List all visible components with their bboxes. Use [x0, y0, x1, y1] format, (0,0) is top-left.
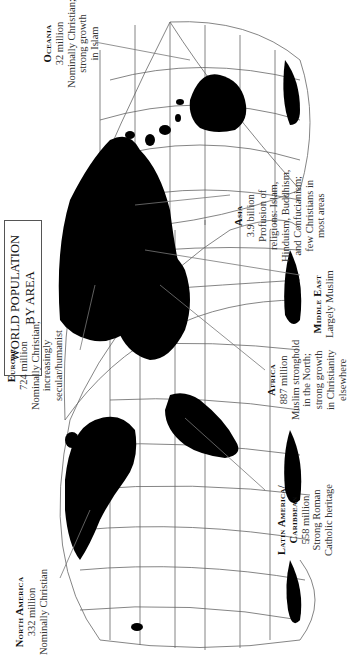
- new-zealand-island: [225, 92, 235, 98]
- hawaii-island: [131, 623, 143, 631]
- antarctica-east: [283, 60, 300, 125]
- label-asia: Asia 3.9 billion Profusion of religions:…: [233, 170, 327, 262]
- greenland-island: [65, 432, 79, 448]
- label-north-america: North America 332 million Nominally Chri…: [14, 569, 49, 655]
- label-oceania: Oceania 32 million Nominally Christian; …: [42, 0, 101, 88]
- australia-landmass: [190, 74, 247, 132]
- label-middle-east: Middle East Largely Muslim: [312, 270, 336, 338]
- label-europe: Europe 724 million Nominally Christian; …: [6, 321, 65, 410]
- label-latin-america: Latin America/ Caribbean 558 million Str…: [276, 484, 335, 556]
- label-africa: Africa 887 million Muslim stronghold in …: [266, 340, 348, 420]
- south-america-landmass: [165, 393, 238, 458]
- antarctica-far-west: [286, 560, 301, 623]
